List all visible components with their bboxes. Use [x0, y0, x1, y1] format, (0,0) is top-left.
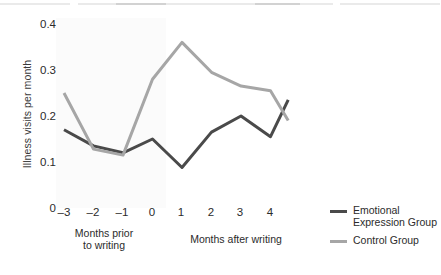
- x-tick-label: –2: [81, 206, 105, 218]
- legend-label-line2: Expression Group: [353, 216, 437, 228]
- x-tick-label: –3: [52, 206, 76, 218]
- legend-item-emotional-expression-group: Emotional Expression Group: [330, 205, 437, 228]
- chart-figure: Illness visits per month 0.4 0.3 0.2 0.1…: [0, 0, 441, 275]
- x-tick-label: –1: [110, 206, 134, 218]
- group-label-line1: Months prior: [75, 227, 133, 239]
- chart-legend: Emotional Expression Group Control Group: [330, 205, 437, 254]
- legend-swatch-icon: [330, 240, 347, 243]
- x-axis-group-label-after: Months after writing: [166, 234, 306, 246]
- x-tick-label: 0: [140, 206, 164, 218]
- legend-label: Control Group: [353, 235, 419, 247]
- x-tick-label: 2: [199, 206, 223, 218]
- series-line-control-group: [64, 42, 288, 155]
- x-axis-group-label-prior: Months prior to writing: [56, 228, 152, 251]
- series-line-emotional-expression-group: [64, 100, 288, 168]
- group-label-line2: to writing: [83, 239, 125, 251]
- legend-item-control-group: Control Group: [330, 235, 437, 247]
- legend-swatch-icon: [330, 210, 347, 213]
- legend-label-line1: Emotional: [353, 204, 400, 216]
- x-tick-label: 1: [169, 206, 193, 218]
- legend-label-line1: Control Group: [353, 234, 419, 246]
- x-tick-label: 4: [258, 206, 282, 218]
- x-tick-label: 3: [228, 206, 252, 218]
- legend-label: Emotional Expression Group: [353, 205, 437, 228]
